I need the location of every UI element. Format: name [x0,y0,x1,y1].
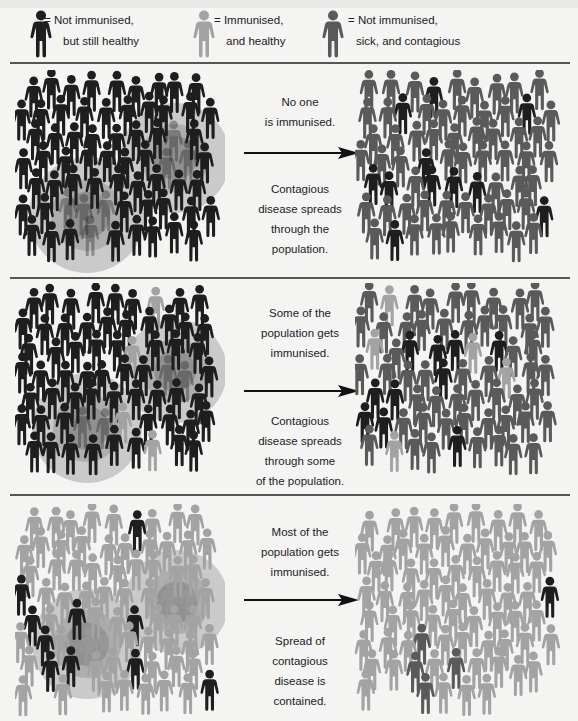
person-icon [155,670,173,711]
caption-line: Contagious [228,411,372,431]
crowd-after [355,70,565,275]
crowd-before [15,70,225,275]
caption-line: through some [228,451,372,471]
caption-top: Most of the population gets immunised. [228,522,372,582]
person-icon [540,141,558,182]
caption-line: population gets [228,542,372,562]
caption-line: of the population. [228,471,372,491]
person-icon [509,655,527,696]
person-icon [357,192,375,233]
legend-label-line1: = Not immunised, [44,10,139,31]
caption-line: is immunised. [228,112,372,132]
caption-line: Contagious [228,179,372,199]
caption-line: immunised. [228,562,372,582]
person-icon [165,212,183,253]
person-icon [200,670,218,711]
top-strip [0,0,578,8]
person-icon [386,220,404,261]
caption-line: No one [228,92,372,112]
person-icon [357,670,375,711]
person-icon [82,71,100,112]
caption-line: Spread of [228,631,372,651]
panel-some-immunised: Some of the population gets immunised. C… [0,279,578,483]
caption-line: population gets [228,323,372,343]
crowd-after [355,283,565,483]
person-icon [425,508,443,549]
caption-top: No one is immunised. [228,92,372,132]
person-icon [15,308,32,349]
legend-label-line2: sick, and contagious [348,31,460,52]
person-icon [465,606,483,647]
person-icon [15,675,32,716]
person-icon [355,354,369,395]
arrow-right-icon [244,383,359,399]
caption-line: immunised. [228,343,372,363]
panel-most-immunised: Most of the population gets immunised. S… [0,496,578,721]
caption-line: Most of the [228,522,372,542]
person-mid-icon [322,10,344,58]
person-icon [468,427,486,468]
legend-label-line2: but still healthy [44,31,139,52]
caption-line: disease is [228,671,372,691]
person-icon [467,648,485,689]
caption-line: contained. [228,691,372,711]
caption-bottom: Spread of contagious disease is containe… [228,631,372,711]
caption-line: disease spreads [228,431,372,451]
person-icon [385,650,403,691]
caption-line: contagious [228,651,372,671]
person-icon [542,624,560,665]
panel-no-one-immunised: No one is immunised. Contagious disease … [0,64,578,276]
legend-label-line1: = Immunised, [214,10,285,31]
arrow-right-icon [244,145,359,161]
caption-top: Some of the population gets immunised. [228,303,372,363]
caption-line: through the [228,219,372,239]
person-icon [530,70,548,110]
person-icon [448,426,466,467]
person-icon [504,434,522,475]
crowd-before [15,283,225,483]
arrow-right-icon [244,592,359,608]
person-icon [541,577,559,618]
person-light-icon [193,10,215,58]
person-icon [179,673,197,714]
caption-line: Some of the [228,303,372,323]
caption-line: population. [228,239,372,259]
legend: = Not immunised, but still healthy = Imm… [0,10,578,60]
caption-bottom: Contagious disease spreads through the p… [228,179,372,259]
crowd-after [355,504,565,719]
legend-label-line1: = Not immunised, [348,10,460,31]
caption-bottom: Contagious disease spreads through some … [228,411,372,491]
legend-label-line2: and healthy [214,31,285,52]
person-icon [538,401,556,442]
crowd-before [15,504,225,719]
caption-line: disease spreads [228,199,372,219]
person-icon [446,283,464,323]
